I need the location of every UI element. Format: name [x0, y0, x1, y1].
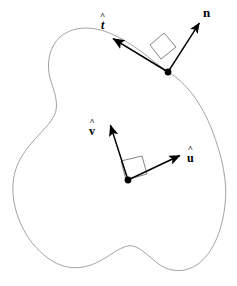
- v-symbol: v: [89, 125, 95, 137]
- interior-base-point: [125, 177, 132, 184]
- right-angle-marker-boundary: [150, 33, 176, 59]
- diagram-canvas: ^ t n ^ v ^ u: [0, 0, 237, 286]
- u-hat-vector-label: ^ u: [187, 146, 194, 164]
- figure-svg: [0, 0, 237, 286]
- normal-vector-label: n: [203, 7, 210, 19]
- boundary-base-point: [165, 69, 172, 76]
- u-symbol: u: [187, 152, 194, 164]
- tangent-vector-label: ^ t: [100, 13, 105, 31]
- closed-region-outline: [13, 28, 226, 271]
- tangent-vector-arrow: [113, 39, 168, 72]
- normal-vector-arrow: [168, 23, 199, 72]
- v-hat-vector-arrow: [110, 125, 128, 180]
- u-hat-vector-arrow: [128, 156, 180, 180]
- normal-symbol: n: [203, 7, 210, 19]
- v-hat-vector-label: ^ v: [89, 119, 95, 137]
